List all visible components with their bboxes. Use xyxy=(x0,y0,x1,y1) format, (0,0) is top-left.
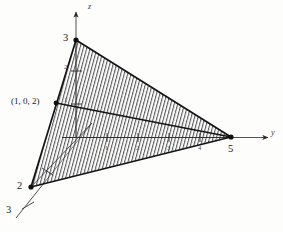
vertex-label-z: 3 xyxy=(63,33,68,44)
y-tick-label-1: 1 xyxy=(105,145,108,152)
figure-root: z y 3 5 2 (1, 0, 2) 3 1 2 3 4 2 1 xyxy=(0,0,283,232)
vertex-label-x: 2 xyxy=(17,181,22,192)
shaded-triangle xyxy=(31,40,231,187)
point-label-1-0-2: (1, 0, 2) xyxy=(11,97,40,106)
x-axis-tick-label-3: 3 xyxy=(6,205,11,216)
y-tick-label-2: 2 xyxy=(136,145,139,152)
z-tick-label-1: 1 xyxy=(64,97,67,104)
vertex-label-y: 5 xyxy=(228,144,233,155)
y-axis-label: y xyxy=(271,129,275,137)
y-tick-label-3: 3 xyxy=(167,145,170,152)
point-dot-1-0-2 xyxy=(54,101,59,106)
vertex-dot-x xyxy=(28,184,33,189)
z-axis-label: z xyxy=(88,3,91,11)
vertex-dot-z xyxy=(73,37,78,42)
vertex-dot-y xyxy=(228,134,233,139)
y-tick-label-4: 4 xyxy=(198,145,201,152)
figure-canvas xyxy=(0,0,283,232)
z-tick-label-2: 2 xyxy=(64,64,67,71)
